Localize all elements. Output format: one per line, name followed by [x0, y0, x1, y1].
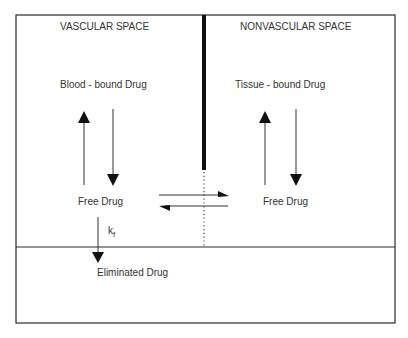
arrow-up-icon [78, 111, 90, 185]
tissue-bound-drug-label: Tissue - bound Drug [235, 79, 325, 90]
nonvascular-free-drug-label: Free Drug [263, 196, 308, 207]
arrow-down-icon [290, 109, 302, 186]
blood-bound-drug-label: Blood - bound Drug [60, 79, 147, 90]
vascular-space-title: VASCULAR SPACE [60, 21, 149, 32]
rate-constant-label: kf [108, 225, 115, 236]
drug-distribution-diagram [0, 0, 408, 338]
arrow-left-icon [159, 205, 228, 211]
rate-constant-subscript: f [113, 230, 115, 239]
eliminated-drug-label: Eliminated Drug [97, 267, 168, 278]
elimination-arrow-icon [92, 217, 104, 263]
arrow-right-icon [159, 191, 229, 197]
arrow-down-icon [107, 109, 119, 186]
arrow-up-icon [259, 111, 271, 185]
vascular-free-drug-label: Free Drug [78, 196, 123, 207]
nonvascular-space-title: NONVASCULAR SPACE [240, 21, 351, 32]
